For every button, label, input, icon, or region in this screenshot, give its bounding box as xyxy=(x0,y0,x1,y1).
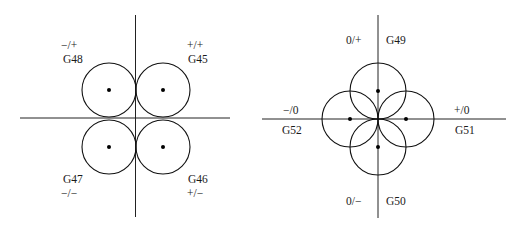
sign-label-g47: −/− xyxy=(61,187,77,199)
code-label-g49: G49 xyxy=(386,34,406,46)
sign-label-g46: +/− xyxy=(187,187,203,199)
center-dot xyxy=(107,88,111,92)
code-label-g50: G50 xyxy=(386,195,406,207)
center-dot xyxy=(376,145,380,149)
sign-label-g48: −/+ xyxy=(61,39,77,51)
code-label-g46: G46 xyxy=(188,173,208,185)
sign-label-g50: 0/− xyxy=(346,195,361,207)
center-dot xyxy=(107,145,111,149)
sign-label-g45: +/+ xyxy=(187,39,203,51)
code-label-g52: G52 xyxy=(282,124,302,136)
code-label-g51: G51 xyxy=(455,124,475,136)
sign-label-g51: +/0 xyxy=(454,104,470,116)
sign-label-g52: −/0 xyxy=(283,104,299,116)
center-dot xyxy=(376,89,380,93)
offset-diagrams: −/+ G48 +/+ G45 G47 −/− G46 +/− 0/+ G49 … xyxy=(0,0,524,233)
center-dot xyxy=(348,117,352,121)
right-diagram: 0/+ G49 0/− G50 +/0 G51 −/0 G52 xyxy=(262,15,506,218)
center-dot xyxy=(404,117,408,121)
sign-label-g49: 0/+ xyxy=(346,34,361,46)
code-label-g48: G48 xyxy=(63,53,83,65)
left-diagram: −/+ G48 +/+ G45 G47 −/− G46 +/− xyxy=(20,15,230,217)
code-label-g47: G47 xyxy=(63,173,83,185)
center-dot xyxy=(161,88,165,92)
center-dot xyxy=(161,145,165,149)
code-label-g45: G45 xyxy=(188,53,208,65)
